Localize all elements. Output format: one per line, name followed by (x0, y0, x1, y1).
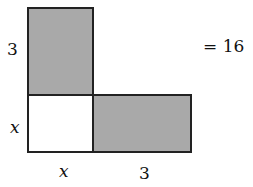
equation-label: = 16 (203, 38, 244, 55)
label-top-height: 3 (7, 41, 18, 58)
right-rectangle (92, 94, 192, 153)
label-right-width: 3 (139, 165, 150, 182)
x-square (27, 94, 94, 153)
label-square-height: x (10, 119, 20, 136)
top-rectangle (27, 7, 94, 96)
label-square-width: x (59, 163, 69, 180)
